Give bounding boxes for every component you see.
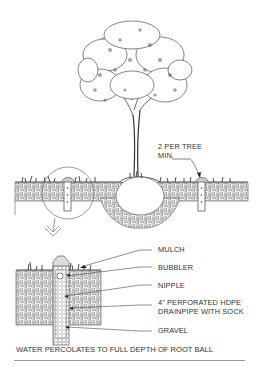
label-gravel: GRAVEL bbox=[158, 327, 188, 336]
label-nipple: NIPPLE bbox=[158, 282, 185, 291]
bottom-divider bbox=[14, 360, 245, 361]
label-mulch: MULCH bbox=[158, 246, 185, 255]
label-bubbler: BUBBLER bbox=[158, 264, 193, 273]
per-tree-label-line2: MIN. bbox=[158, 152, 202, 161]
drainpipe-detail bbox=[53, 256, 69, 345]
label-drainpipe-line2: DRAINPIPE WITH SOCK bbox=[158, 308, 244, 317]
diagram-caption: WATER PERCOLATES TO FULL DEPTH OF ROOT B… bbox=[16, 345, 213, 354]
root-ball bbox=[116, 177, 164, 215]
per-tree-label: 2 PER TREE MIN. bbox=[158, 143, 202, 160]
leader-per-tree bbox=[172, 159, 201, 178]
